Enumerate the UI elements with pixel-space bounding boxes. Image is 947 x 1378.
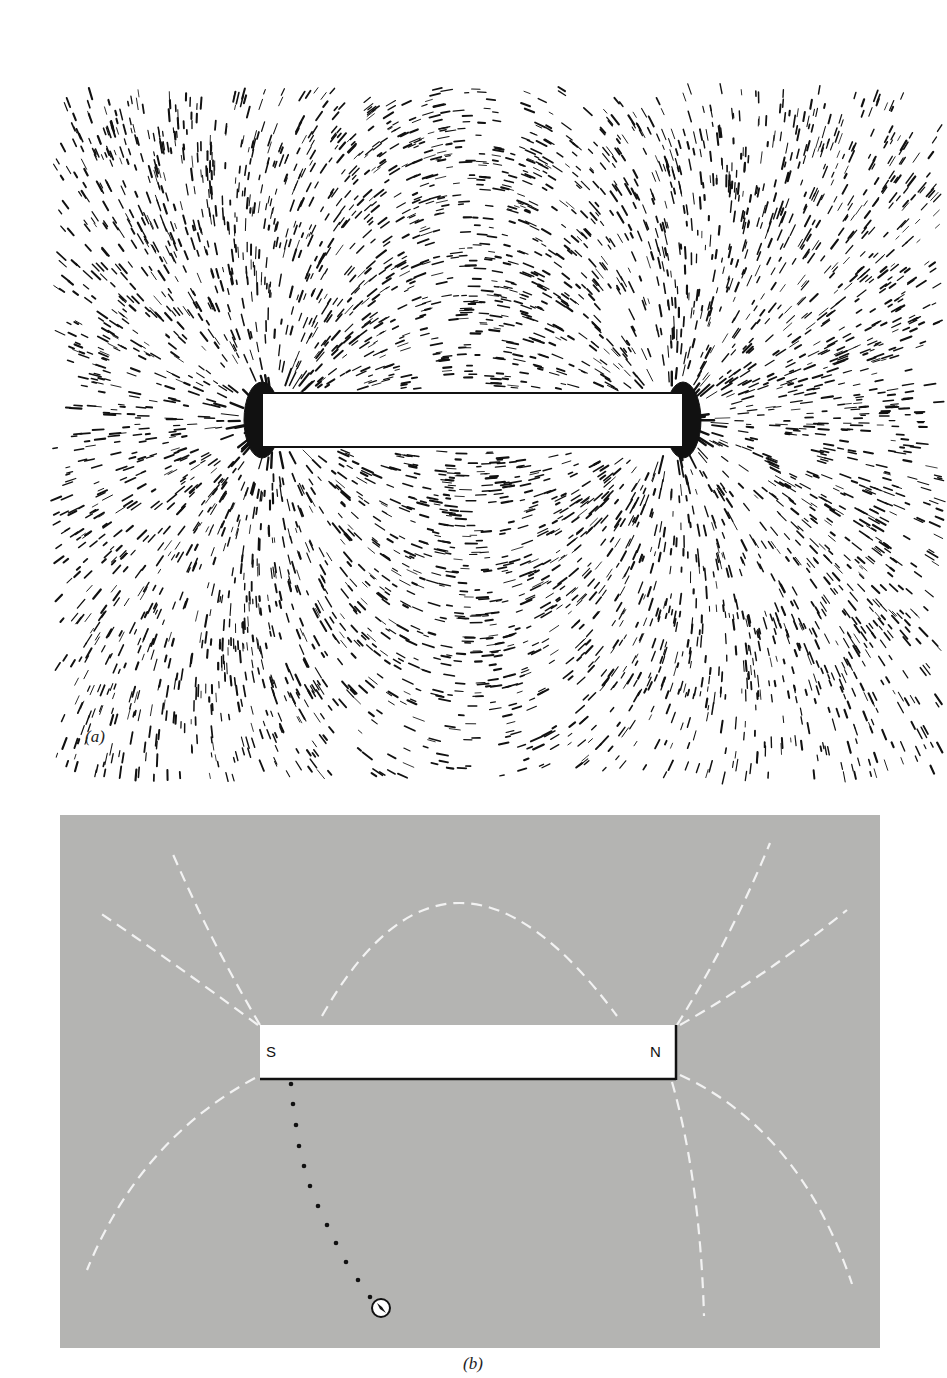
panel-a-caption: (a) bbox=[85, 727, 105, 747]
iron-filings-panel: (a) bbox=[0, 0, 947, 790]
bar-magnet bbox=[262, 393, 683, 447]
panel-b-caption: (b) bbox=[463, 1354, 483, 1374]
field-lines-diagram-panel bbox=[60, 815, 880, 1348]
south-pole-label: S bbox=[266, 1043, 276, 1060]
iron-filings-field-pattern bbox=[0, 0, 947, 790]
north-pole-label: N bbox=[650, 1043, 661, 1060]
